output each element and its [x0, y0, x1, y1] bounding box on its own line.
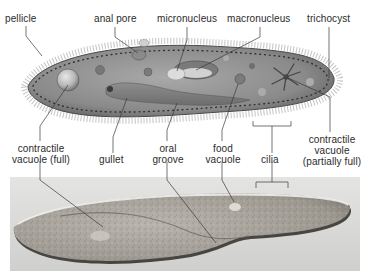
label-cilia: cilia — [261, 154, 279, 165]
label-line: vacuole — [203, 154, 243, 165]
micronucleus-shape — [167, 68, 185, 80]
micrograph-panel — [10, 177, 360, 271]
label-line: groove — [151, 154, 185, 165]
food-vacuole-shape — [235, 74, 245, 84]
label-pellicle: pellicle — [5, 13, 36, 24]
label-food-vacuole: food vacuole — [203, 143, 243, 165]
label-contractile-vacuole-partial: contractile vacuole (partially full) — [301, 134, 363, 167]
label-macronucleus: macronucleus — [227, 13, 290, 24]
label-gullet: gullet — [99, 154, 124, 165]
paramecium-figure: pellicle anal pore micronucleus macronuc… — [0, 0, 367, 275]
label-trichocyst: trichocyst — [307, 13, 350, 24]
label-line: (partially full) — [301, 156, 363, 167]
anal-pore-shape — [132, 50, 146, 60]
photo-food-vacuole — [229, 203, 241, 211]
label-line: vacuole (full) — [11, 154, 71, 165]
label-anal-pore: anal pore — [94, 13, 137, 24]
label-line: oral — [151, 143, 185, 154]
gullet-opening — [107, 86, 113, 92]
contractile-vacuole-full-shape — [57, 69, 79, 91]
label-contractile-vacuole-full: contractile vacuole (full) — [11, 143, 71, 165]
label-line: food — [203, 143, 243, 154]
label-oral-groove: oral groove — [151, 143, 185, 165]
label-line: vacuole — [301, 145, 363, 156]
label-line: contractile — [301, 134, 363, 145]
label-micronucleus: micronucleus — [157, 13, 217, 24]
label-line: contractile — [11, 143, 71, 154]
